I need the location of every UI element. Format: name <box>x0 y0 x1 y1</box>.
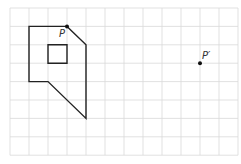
shape-outline <box>29 26 86 118</box>
point-P_prime-dot <box>198 61 202 65</box>
point-P-dot <box>65 24 69 28</box>
point-P_prime-label: P′ <box>202 50 211 61</box>
diagram-canvas: PP′ <box>0 0 241 164</box>
point-P-label: P <box>59 28 66 39</box>
shape-inner-square <box>48 45 67 63</box>
